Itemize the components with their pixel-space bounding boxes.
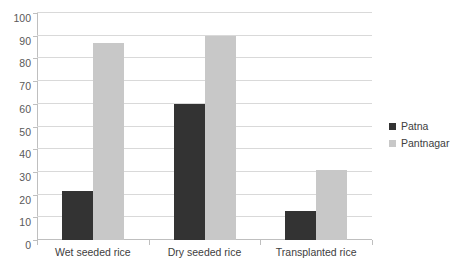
legend-label: Pantnagar <box>401 138 449 149</box>
bar-patna-1 <box>174 104 205 240</box>
category-label-0: Wet seeded rice <box>37 247 149 259</box>
y-axis-tick-mark <box>33 13 37 14</box>
y-axis-tick-mark <box>33 149 37 150</box>
category-separator <box>149 240 150 245</box>
y-axis-tick-mark <box>33 36 37 37</box>
category-label-1: Dry seeded rice <box>149 247 261 259</box>
legend-label: Patna <box>401 121 428 132</box>
category-separator <box>37 240 38 245</box>
y-axis-tick-mark <box>33 172 37 173</box>
legend-item-patna[interactable]: Patna <box>389 118 449 135</box>
category-separator <box>260 240 261 245</box>
y-axis-tick-mark <box>33 81 37 82</box>
bar-patna-2 <box>285 211 316 241</box>
bar-pantnagar-2 <box>316 170 347 240</box>
bar-chart: 0102030405060708090100 Wet seeded riceDr… <box>0 0 453 277</box>
category-separator <box>372 240 373 245</box>
bar-patna-0 <box>62 191 93 240</box>
y-axis-tick-mark <box>33 127 37 128</box>
category-label-2: Transplanted rice <box>260 247 372 259</box>
legend-swatch-icon <box>389 123 396 130</box>
chart-legend: PatnaPantnagar <box>389 118 449 152</box>
bars-layer <box>37 13 372 240</box>
y-axis-tick-mark <box>33 195 37 196</box>
plot-area <box>37 13 372 240</box>
y-axis-labels: 0102030405060708090100 <box>0 13 31 240</box>
y-axis-tick-mark <box>33 240 37 241</box>
y-axis-tick-mark <box>33 217 37 218</box>
bar-pantnagar-1 <box>205 36 236 240</box>
y-axis-tick-mark <box>33 104 37 105</box>
legend-swatch-icon <box>389 140 396 147</box>
bar-pantnagar-0 <box>93 43 124 240</box>
legend-item-pantnagar[interactable]: Pantnagar <box>389 135 449 152</box>
y-axis-tick-mark <box>33 58 37 59</box>
